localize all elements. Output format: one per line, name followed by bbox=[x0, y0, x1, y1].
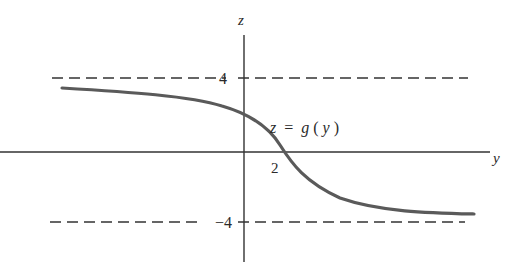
curve-label-open: ( bbox=[313, 119, 318, 137]
x-intercept-label: 2 bbox=[271, 160, 279, 176]
curve-label-arg: y bbox=[321, 119, 331, 137]
horizontal-axis-label: y bbox=[491, 150, 500, 166]
function-graph: z y 4 −4 2 z = g ( y ) bbox=[0, 0, 527, 267]
curve-label: z = g ( y ) bbox=[269, 119, 339, 137]
curve-label-close: ) bbox=[334, 119, 339, 137]
curve-label-eq: = bbox=[284, 119, 293, 136]
vertical-axis-label: z bbox=[237, 12, 244, 28]
curve-g bbox=[62, 88, 474, 214]
upper-asymptote-label: 4 bbox=[219, 70, 227, 87]
curve-label-func: g bbox=[301, 119, 309, 137]
lower-asymptote-label: −4 bbox=[215, 214, 232, 231]
curve-label-lhs: z bbox=[269, 119, 277, 136]
